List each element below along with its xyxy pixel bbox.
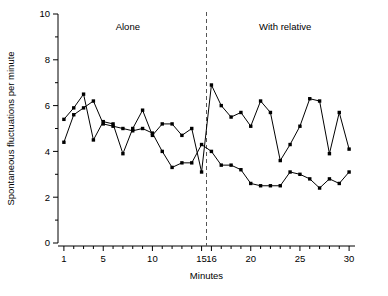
- data-point: [239, 111, 242, 114]
- data-point: [210, 150, 213, 153]
- data-point: [151, 131, 154, 134]
- data-point: [249, 125, 252, 128]
- data-point: [141, 108, 144, 111]
- data-point: [269, 184, 272, 187]
- data-point: [259, 99, 262, 102]
- y-tick-label: 6: [45, 100, 50, 111]
- data-point: [288, 143, 291, 146]
- chart-container: 0246810 15101516202530 AloneWith relativ…: [0, 0, 388, 296]
- data-point: [229, 163, 232, 166]
- data-point: [92, 99, 95, 102]
- x-tick-label: 10: [147, 253, 158, 264]
- data-point: [62, 141, 65, 144]
- data-point: [72, 113, 75, 116]
- data-point: [269, 111, 272, 114]
- y-tick-label: 8: [45, 54, 50, 65]
- x-tick-label: 25: [295, 253, 306, 264]
- y-axis-group: 0246810: [39, 8, 58, 248]
- data-point: [338, 182, 341, 185]
- x-axis-ticks: [64, 246, 349, 251]
- data-point: [298, 173, 301, 176]
- x-tick-label: 5: [101, 253, 106, 264]
- x-tick-label: 20: [245, 253, 256, 264]
- data-point: [170, 166, 173, 169]
- y-tick-label: 2: [45, 192, 50, 203]
- data-point: [170, 122, 173, 125]
- panel-annotations: AloneWith relative: [116, 21, 312, 32]
- panel-label-0: Alone: [116, 21, 140, 32]
- x-tick-label: 30: [344, 253, 355, 264]
- x-tick-label: 16: [206, 253, 217, 264]
- data-point: [72, 106, 75, 109]
- data-point: [180, 161, 183, 164]
- data-point: [308, 97, 311, 100]
- data-point: [131, 129, 134, 132]
- data-point: [308, 177, 311, 180]
- data-point: [141, 127, 144, 130]
- data-point: [249, 182, 252, 185]
- y-tick-label: 4: [45, 146, 50, 157]
- data-point: [298, 125, 301, 128]
- data-point: [239, 168, 242, 171]
- y-tick-label: 0: [45, 237, 50, 248]
- data-point: [82, 92, 85, 95]
- data-point: [121, 127, 124, 130]
- data-point: [180, 134, 183, 137]
- data-point: [279, 184, 282, 187]
- data-point: [190, 161, 193, 164]
- y-axis-ticks: [53, 14, 58, 243]
- data-point: [111, 125, 114, 128]
- x-tick-label: 1: [61, 253, 66, 264]
- data-point: [229, 115, 232, 118]
- data-point: [338, 111, 341, 114]
- data-point: [210, 83, 213, 86]
- data-point: [161, 122, 164, 125]
- data-point: [318, 186, 321, 189]
- line-chart: 0246810 15101516202530 AloneWith relativ…: [0, 0, 388, 296]
- x-axis-group: 15101516202530: [58, 246, 355, 264]
- data-point: [190, 127, 193, 130]
- y-axis-title: Spontaneous fluctuations per minute: [5, 51, 16, 205]
- data-point: [82, 106, 85, 109]
- y-axis-tick-labels: 0246810: [39, 8, 50, 248]
- x-axis-tick-labels: 15101516202530: [61, 253, 354, 264]
- data-point: [259, 184, 262, 187]
- data-point: [328, 152, 331, 155]
- data-point: [62, 118, 65, 121]
- data-point: [200, 170, 203, 173]
- data-point: [288, 170, 291, 173]
- data-point: [200, 143, 203, 146]
- data-point: [92, 138, 95, 141]
- data-point: [279, 159, 282, 162]
- panel-label-1: With relative: [259, 21, 311, 32]
- data-point: [102, 122, 105, 125]
- data-point: [347, 147, 350, 150]
- y-tick-label: 10: [39, 8, 50, 19]
- data-point: [220, 104, 223, 107]
- data-point: [220, 163, 223, 166]
- data-point: [328, 177, 331, 180]
- x-axis-title: Minutes: [190, 270, 224, 281]
- data-point: [347, 170, 350, 173]
- data-point: [121, 152, 124, 155]
- data-point: [161, 150, 164, 153]
- data-point: [318, 99, 321, 102]
